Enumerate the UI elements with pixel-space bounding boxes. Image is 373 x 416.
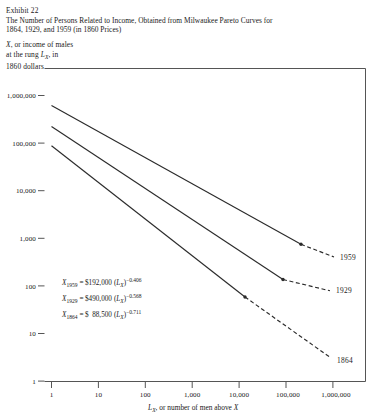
svg-text:LX, or number of men above X: LX, or number of men above X: [147, 403, 239, 413]
y-tick-label: 1,000: [20, 235, 37, 243]
curve-end-label: 1864: [337, 356, 353, 365]
x-tick-label: 100: [140, 391, 151, 399]
equation-equals: =: [79, 311, 83, 319]
x-tick-label: 10,000: [229, 391, 249, 399]
equation-lhs-sub: 1864: [66, 314, 77, 320]
x-tick-label: 1,000,000: [321, 391, 351, 399]
chart-page: Exhibit 22 The Number of Persons Related…: [0, 0, 373, 416]
x-tick-label: 1: [50, 391, 54, 399]
x-tick-label: 100,000: [276, 391, 300, 399]
equation-1959: X1959=$192,000(LX)−0.406: [61, 277, 142, 289]
x-axis-caption: LX, or number of men above X: [147, 403, 239, 413]
equation-equals: =: [79, 279, 83, 287]
y-tick-label: 100,000: [12, 140, 36, 148]
x-axis-var-x: X: [233, 403, 239, 412]
plot-area: 1,000,000 100,000 10,000 1,000 100 10 1 …: [0, 0, 373, 416]
series-label-1959: 1959: [340, 253, 356, 262]
y-tick-label: 100: [25, 283, 36, 291]
equation-coefficient: $490,000: [85, 295, 112, 303]
equation-equals: =: [79, 295, 83, 303]
y-axis-tick-labels: 1,000,000 100,000 10,000 1,000 100 10 1: [7, 92, 37, 386]
y-tick-label: 10: [29, 330, 37, 338]
x-tick-label: 10: [95, 391, 103, 399]
series-line-1959: [52, 106, 335, 258]
equation-lhs-sub: 1959: [66, 282, 77, 288]
curve-end-label: 1929: [336, 286, 352, 295]
series-label-1929: 1929: [336, 286, 352, 295]
equation-exponent: −0.568: [126, 293, 142, 299]
y-tick-label: 1: [32, 378, 36, 386]
x-axis-ticks: [52, 382, 333, 389]
equation-coefficient: $ 88,500: [85, 311, 112, 319]
equation-block: X1959=$192,000(LX)−0.406 X1929=$490,000(…: [61, 277, 142, 321]
equation-1864: X1864=$ 88,500(LX)−0.711: [61, 309, 142, 321]
series-label-1864: 1864: [337, 356, 353, 365]
plot-frame: [45, 69, 366, 382]
equation-exponent: −0.711: [126, 309, 142, 315]
x-axis-caption-text: , or number of men above: [156, 403, 234, 412]
series-line-1864: [52, 146, 332, 358]
equation-coefficient: $192,000: [85, 279, 112, 287]
equation-1929: X1929=$490,000(LX)−0.568: [61, 293, 142, 305]
x-tick-label: 1,000: [184, 391, 201, 399]
y-axis-ticks: [38, 96, 45, 382]
x-axis-tick-labels: 1 10 100 1,000 10,000 100,000 1,000,000: [50, 391, 351, 399]
series-line-1929: [52, 126, 331, 290]
y-tick-label: 10,000: [16, 187, 36, 195]
curve-end-label: 1959: [340, 253, 356, 262]
equation-exponent: −0.406: [126, 277, 142, 283]
equation-lhs-sub: 1929: [66, 298, 77, 304]
y-tick-label: 1,000,000: [7, 92, 37, 100]
